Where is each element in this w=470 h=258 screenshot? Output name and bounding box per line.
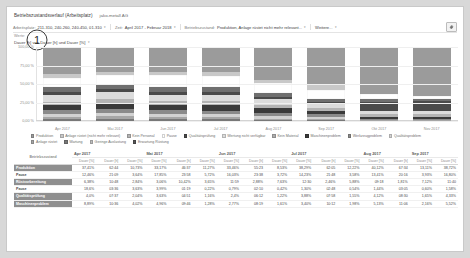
table-cell: 13,41%: [362, 171, 386, 178]
table-sub-header: Dauer [%]: [289, 158, 313, 165]
table-cell: 1,81%: [386, 178, 410, 185]
table-cell: 7,12%: [410, 178, 434, 185]
legend-item[interactable]: Wartung: [64, 140, 82, 144]
table-month-group: Jun 2017: [217, 150, 289, 158]
chart-x-tick-label: Apr 2017: [36, 127, 89, 131]
chart-y-tick-label: 75,00 %: [14, 64, 34, 68]
table-cell: 12,46%: [72, 171, 96, 178]
stacked-bar-chart: Apr 2017Mai 2017Jun 2017Jul 2017Aug 2017…: [14, 47, 458, 131]
chart-bar-segment[interactable]: [202, 47, 240, 72]
chart-bar-segment[interactable]: [149, 75, 187, 87]
legend-item[interactable]: Geringe Auslastung: [90, 140, 126, 144]
table-cell: 20:16: [386, 171, 410, 178]
table-cell: 07:58: [313, 193, 337, 200]
table-month-group: Jul 2017: [289, 150, 361, 158]
table-cell: 1,16%: [193, 193, 217, 200]
legend-item[interactable]: Kein Material: [272, 134, 298, 138]
table-row[interactable]: Produktion37,41%62:4410,73%33,17%46:3711…: [14, 164, 458, 171]
legend-item[interactable]: Maschinenproblem: [305, 134, 340, 138]
table-sub-header: Dauer [%]: [144, 158, 168, 165]
table-row[interactable]: Qualitätsprüfung4,0%07:372,04%3,63%04:51…: [14, 193, 458, 200]
table-sub-header: Dauer [h]: [386, 158, 410, 165]
legend-item[interactable]: Anlage rüstet: [31, 140, 57, 144]
chart-bar-segment[interactable]: [202, 76, 240, 87]
chevron-down-icon[interactable]: ▾: [304, 25, 306, 29]
filter-weitere[interactable]: Weitere... ▾: [315, 25, 336, 30]
table-row[interactable]: Pause18,6%03:363,63%3,99%01:190,22%0,79%…: [14, 186, 458, 193]
table-cell: 04:51: [169, 193, 193, 200]
table-cell: 0,54%: [337, 186, 361, 193]
chart-bar-segment[interactable]: [413, 47, 451, 96]
chart-bar-segment[interactable]: [149, 47, 187, 72]
table-cell: 46:37: [169, 164, 193, 171]
table-row[interactable]: Pause12,46%21:093,64%17,85%23:585,72%16,…: [14, 171, 458, 178]
table-row-header: Maschinenproblem: [14, 200, 72, 207]
table-cell: 33,17%: [144, 164, 168, 171]
chart-bar-segment[interactable]: [43, 95, 81, 102]
legend-item[interactable]: Werkzeugproblem: [348, 134, 382, 138]
chart-bar-segment[interactable]: [96, 47, 134, 72]
legend-item[interactable]: Pause: [162, 134, 177, 138]
report-page: Betriebszustandsverlauf (Arbeitsplatz) j…: [6, 6, 464, 252]
table-row[interactable]: Maschinenproblem8,89%10:364,02%4,96%09:4…: [14, 200, 458, 207]
table-cell: 3,72%: [265, 171, 289, 178]
legend-item[interactable]: Qualitätsprüfung: [184, 134, 215, 138]
table-cell: 8,53%: [265, 164, 289, 171]
table-cell: 0,60%: [410, 186, 434, 193]
filter-betriebszustand[interactable]: Betriebszustand: Produktion, Anlage rüst…: [185, 25, 307, 30]
table-cell: 21:48: [313, 171, 337, 178]
table-cell: 09:18: [362, 178, 386, 185]
table-cell: 1,30%: [289, 186, 313, 193]
table-cell: 3,63%: [120, 186, 144, 193]
table-cell: 5,88%: [337, 178, 361, 185]
chart-bar-segment[interactable]: [307, 90, 345, 99]
table-row[interactable]: Rüstvorbereitung6,38%10:482,84%3,06%10,4…: [14, 178, 458, 185]
chart-x-tick-label: Aug 2017: [247, 127, 300, 131]
chart-bar-segment[interactable]: [43, 78, 81, 87]
table-sub-header: Dauer [h]: [241, 158, 265, 165]
legend-swatch: [162, 134, 165, 137]
legend-swatch: [348, 134, 351, 137]
table-cell: 10,42%: [169, 178, 193, 185]
table-cell: 3,06%: [144, 178, 168, 185]
chevron-down-icon[interactable]: ▾: [174, 25, 176, 29]
report-subtitle: jako-metall AG: [100, 13, 129, 18]
chart-bar-segment[interactable]: [43, 47, 81, 74]
chart-legend: ProduktionAnlage rüstet (nicht mehr rele…: [31, 134, 451, 144]
chart-gridline: [36, 66, 458, 67]
chevron-down-icon[interactable]: ▾: [104, 25, 106, 29]
corner-label: Betriebszustand: [14, 154, 72, 160]
chevron-down-icon[interactable]: ▾: [335, 25, 337, 29]
table-sub-header-row: Dauer [%]Dauer [h]Dauer [%]Dauer [%]Daue…: [14, 158, 458, 165]
filter-zeit[interactable]: Zeit: April 2017 - Februar 2018 ▾: [115, 25, 176, 30]
table-cell: 02:10: [241, 186, 265, 193]
legend-label: Werkzeugproblem: [353, 134, 382, 138]
table-cell: 2,77%: [217, 200, 241, 207]
table-cell: 08:30: [386, 193, 410, 200]
table-cell: 33,46%: [217, 164, 241, 171]
table-cell: 4,96%: [144, 200, 168, 207]
table-cell: 03:36: [96, 186, 120, 193]
table-cell: 3,99%: [144, 186, 168, 193]
legend-item[interactable]: Qualitätsproblem: [389, 134, 421, 138]
table-cell: 10:36: [96, 200, 120, 207]
table-sub-header: Dauer [%]: [265, 158, 289, 165]
chart-bar-segment[interactable]: [96, 92, 134, 99]
legend-item[interactable]: Produktion: [31, 134, 53, 138]
legend-item[interactable]: Kein Personal: [127, 134, 154, 138]
table-cell: 01:19: [169, 186, 193, 193]
gear-icon[interactable]: [446, 22, 457, 32]
legend-item[interactable]: Anlage rüstet (nicht mehr relevant): [60, 134, 120, 138]
table-sub-header: Dauer [%]: [410, 158, 434, 165]
table-cell: 1,55%: [337, 193, 361, 200]
chart-bar-segment[interactable]: [254, 47, 292, 80]
table-cell: 0,79%: [217, 186, 241, 193]
table-cell: 67:34: [386, 164, 410, 171]
chevron-down-icon[interactable]: ▾: [88, 40, 90, 44]
annotation-badge-label: 1: [34, 34, 40, 46]
legend-item[interactable]: Wertung nicht verfügbar: [222, 134, 265, 138]
table-cell: 6,38%: [72, 178, 96, 185]
table-cell: 1,22%: [265, 193, 289, 200]
chart-bar-segment[interactable]: [360, 47, 398, 94]
legend-item[interactable]: Erwartung Rüstung: [133, 140, 169, 144]
